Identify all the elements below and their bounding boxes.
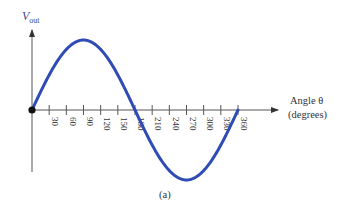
x-tick-label: 240 bbox=[171, 117, 181, 131]
x-tick-label: 120 bbox=[102, 117, 112, 131]
x-tick-label: 270 bbox=[188, 117, 198, 131]
x-tick-label: 90 bbox=[85, 117, 95, 127]
x-tick-label: 150 bbox=[119, 117, 129, 131]
figure-caption: (a) bbox=[159, 189, 171, 201]
origin-dot bbox=[28, 106, 35, 113]
sine-wave-figure: 306090120150180210240270300330360 Vout A… bbox=[0, 0, 338, 208]
x-axis-label-line1: Angle θ bbox=[290, 95, 323, 106]
x-tick-label: 210 bbox=[153, 117, 163, 131]
x-tick-label: 60 bbox=[68, 117, 78, 127]
x-tick-label: 360 bbox=[239, 117, 249, 131]
x-tick-label: 30 bbox=[50, 117, 60, 127]
x-tick-label: 300 bbox=[205, 117, 215, 131]
y-axis-label: Vout bbox=[22, 9, 40, 25]
sine-wave-plot: 306090120150180210240270300330360 Vout A… bbox=[0, 0, 338, 208]
x-axis-ticks: 306090120150180210240270300330360 bbox=[49, 105, 249, 131]
x-axis-label-line2: (degrees) bbox=[288, 109, 328, 121]
